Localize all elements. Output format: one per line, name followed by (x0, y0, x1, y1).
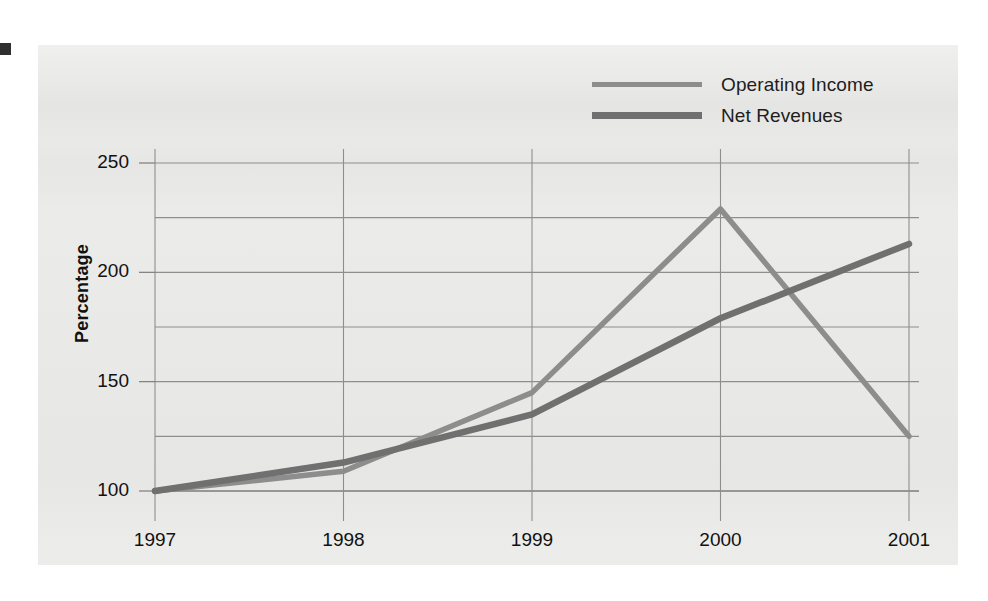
legend-item-net-revenues: Net Revenues (592, 100, 922, 131)
x-tick-label-2001: 2001 (869, 529, 949, 551)
axis-layer (139, 163, 155, 491)
x-tick-label-1999: 1999 (492, 529, 572, 551)
legend-swatch-net-revenues (592, 112, 702, 119)
x-tick-label-1998: 1998 (304, 529, 384, 551)
chart-legend: Operating Income Net Revenues (592, 69, 922, 131)
y-tick-label-200: 200 (69, 260, 129, 282)
scan-edge-artifact (0, 43, 11, 55)
grid-layer (155, 149, 919, 521)
y-tick-label-100: 100 (69, 479, 129, 501)
legend-item-operating-income: Operating Income (592, 69, 922, 100)
x-tick-label-2000: 2000 (681, 529, 761, 551)
legend-label-operating-income: Operating Income (721, 74, 874, 96)
y-tick-label-250: 250 (69, 151, 129, 173)
legend-swatch-operating-income (592, 82, 702, 87)
y-axis-title: Percentage (72, 194, 93, 394)
y-tick-label-150: 150 (69, 370, 129, 392)
page-background: Percentage 250200150100 1997199819992000… (0, 0, 988, 601)
x-tick-label-1997: 1997 (115, 529, 195, 551)
legend-label-net-revenues: Net Revenues (721, 105, 843, 127)
